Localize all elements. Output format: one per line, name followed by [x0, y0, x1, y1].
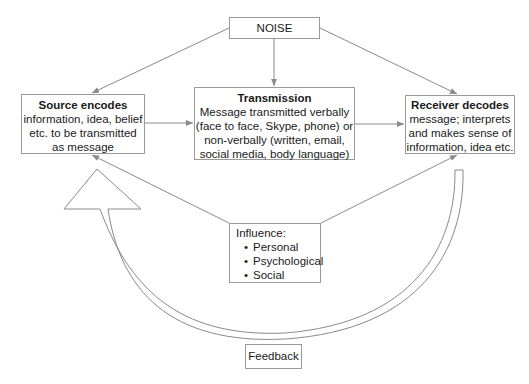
- noise-label: NOISE: [257, 22, 293, 34]
- source-body: information, idea, belief etc. to be tra…: [22, 112, 144, 154]
- connectors-layer: [0, 0, 529, 384]
- communication-process-diagram: NOISE Source encodes information, idea, …: [0, 0, 529, 384]
- arrow-noise-to-source: [92, 28, 229, 93]
- transmission-title: Transmission: [195, 91, 354, 105]
- influence-item-social: Social: [244, 268, 320, 282]
- influence-item-psychological: Psychological: [244, 254, 320, 268]
- feedback-box: Feedback: [245, 344, 302, 369]
- transmission-box: Transmission Message transmitted verball…: [194, 87, 355, 160]
- influence-box: Influence: Personal Psychological Social: [229, 223, 321, 283]
- influence-item-personal: Personal: [244, 240, 320, 254]
- transmission-body: Message transmitted verbally (face to fa…: [195, 105, 354, 161]
- arrow-influence-to-receiver: [321, 155, 457, 223]
- influence-title: Influence:: [236, 226, 320, 240]
- receiver-title: Receiver decodes: [406, 98, 514, 112]
- influence-list: Personal Psychological Social: [236, 240, 320, 282]
- arrow-noise-to-receiver: [320, 28, 457, 94]
- source-title: Source encodes: [22, 98, 144, 112]
- feedback-label: Feedback: [248, 350, 299, 362]
- receiver-decodes-box: Receiver decodes message; interprets and…: [405, 95, 515, 154]
- receiver-body: message; interprets and makes sense of i…: [406, 112, 514, 154]
- noise-box: NOISE: [229, 17, 320, 39]
- feedback-arrowhead: [64, 169, 141, 209]
- source-encodes-box: Source encodes information, idea, belief…: [21, 94, 145, 154]
